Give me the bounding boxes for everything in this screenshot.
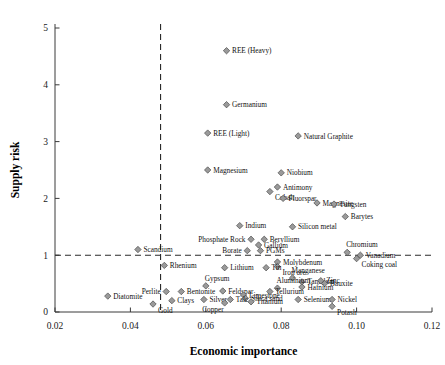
- x-tick-label: 0.10: [348, 321, 365, 331]
- data-point-label: Titanium: [257, 297, 284, 306]
- y-tick-label: 2: [43, 194, 48, 204]
- diamond-marker: [163, 288, 169, 294]
- data-point-label: Scandium: [143, 245, 173, 254]
- data-point: Scandium: [135, 245, 173, 254]
- data-point-label: Vanadium: [366, 251, 396, 260]
- data-point: Talc: [227, 295, 249, 304]
- data-point: Lithium: [221, 263, 254, 272]
- data-point: Natural Graphite: [295, 132, 353, 141]
- data-point-label: Gold: [158, 306, 173, 315]
- diamond-marker: [278, 170, 284, 176]
- y-tick-label: 5: [43, 23, 48, 33]
- diamond-marker: [223, 48, 229, 54]
- scatter-chart: 0123450.020.040.060.080.100.12 REE (Heav…: [0, 0, 445, 365]
- data-point-label: Antimony: [283, 183, 313, 192]
- x-tick-label: 0.04: [122, 321, 139, 331]
- data-point-label: Tungsten: [339, 200, 366, 209]
- data-point: PGMs: [257, 246, 285, 255]
- data-point-label: Rhenium: [170, 261, 197, 270]
- diamond-marker: [204, 130, 210, 136]
- data-point: Nickel: [329, 295, 357, 304]
- data-point: Germanium: [223, 100, 267, 109]
- diamond-marker: [150, 301, 156, 307]
- diamond-marker: [223, 101, 229, 107]
- data-point: Borate: [222, 246, 250, 255]
- data-point: Magnesium: [204, 166, 247, 175]
- data-point-label: Clays: [177, 296, 194, 305]
- data-point-label: Magnesium: [213, 166, 248, 175]
- diamond-marker: [295, 133, 301, 139]
- data-point-label: REE (Light): [213, 129, 250, 138]
- data-point: REE (Heavy): [223, 46, 272, 55]
- data-point-label: Borate: [222, 246, 241, 255]
- diamond-marker: [244, 247, 250, 253]
- diamond-marker: [178, 288, 184, 294]
- diamond-marker: [169, 297, 175, 303]
- data-point: Vanadium: [357, 251, 396, 260]
- data-point-label: Diatomite: [113, 292, 142, 301]
- data-point-label: Copper: [202, 305, 224, 314]
- diamond-marker: [342, 213, 348, 219]
- data-point-label: Chromium: [346, 240, 378, 249]
- x-tick-label: 0.08: [273, 321, 290, 331]
- data-point-label: Perlite: [142, 287, 161, 296]
- data-point-label: Niobium: [287, 168, 313, 177]
- data-point-label: Nickel: [338, 295, 357, 304]
- data-point-label: Tin: [272, 263, 282, 272]
- chart-canvas: 0123450.020.040.060.080.100.12 REE (Heav…: [0, 0, 445, 365]
- data-point: Clays: [169, 296, 194, 305]
- data-point-label: Phosphate Rock: [198, 235, 246, 244]
- data-point-label: Talc: [236, 295, 249, 304]
- y-tick-label: 4: [43, 80, 48, 90]
- diamond-marker: [267, 188, 273, 194]
- data-point: Phosphate Rock: [198, 235, 254, 244]
- diamond-marker: [263, 264, 269, 270]
- data-point-label: Natural Graphite: [304, 132, 353, 141]
- y-tick-label: 3: [43, 137, 48, 147]
- diamond-marker: [344, 249, 350, 255]
- data-point: Perlite: [142, 287, 170, 296]
- data-point-label: Selenium: [304, 295, 332, 304]
- data-point-label: Silicon metal: [298, 222, 337, 231]
- diamond-marker: [248, 236, 254, 242]
- data-point-label: Bauxite: [330, 279, 353, 288]
- y-tick-label: 0: [43, 307, 48, 317]
- data-point: Potash: [329, 303, 357, 317]
- data-point-label: PGMs: [266, 246, 285, 255]
- data-point-label: Potash: [337, 308, 357, 317]
- axes-layer: 0123450.020.040.060.080.100.12: [43, 23, 440, 331]
- diamond-marker: [161, 262, 167, 268]
- diamond-marker: [295, 296, 301, 302]
- data-point-label: Indium: [245, 221, 266, 230]
- diamond-marker: [105, 293, 111, 299]
- x-tick-label: 0.06: [197, 321, 214, 331]
- data-point: Niobium: [278, 168, 313, 177]
- y-axis-title: Supply risk: [9, 141, 22, 198]
- diamond-marker: [255, 242, 261, 248]
- data-point-label: REE (Heavy): [232, 46, 272, 55]
- data-point-label: Fluorspar: [289, 194, 318, 203]
- x-axis-title: Economic importance: [190, 345, 298, 358]
- diamond-marker: [135, 246, 141, 252]
- data-point: Antimony: [274, 183, 313, 192]
- data-point-label: Coking coal: [362, 260, 397, 269]
- data-point-label: Hafnium: [307, 283, 333, 292]
- y-tick-label: 1: [43, 251, 48, 261]
- data-points-layer: REE (Heavy)GermaniumREE (Light)Natural G…: [105, 46, 397, 317]
- data-point: Silicon metal: [289, 222, 336, 231]
- diamond-marker: [227, 296, 233, 302]
- data-point-label: Barytes: [351, 212, 373, 221]
- diamond-marker: [274, 184, 280, 190]
- x-tick-label: 0.02: [47, 321, 64, 331]
- data-point-label: Lithium: [230, 263, 254, 272]
- data-point-label: Germanium: [232, 100, 267, 109]
- diamond-marker: [237, 222, 243, 228]
- diamond-marker: [220, 288, 226, 294]
- data-point-label: Aluminium: [276, 276, 310, 285]
- data-point: Tin: [263, 263, 282, 272]
- diamond-marker: [204, 167, 210, 173]
- data-point: Rhenium: [161, 261, 197, 270]
- data-point: Diatomite: [105, 292, 143, 301]
- diamond-marker: [257, 247, 263, 253]
- diamond-marker: [221, 264, 227, 270]
